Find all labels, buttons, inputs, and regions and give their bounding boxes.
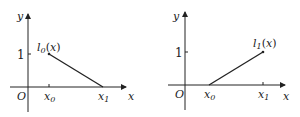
tick-label-1: 1 bbox=[175, 46, 183, 60]
y-label: y bbox=[16, 10, 24, 23]
tick-label-1: 1 bbox=[17, 48, 25, 62]
diagram: y 1 O x x0 x1 l0(x) y 1 O x x0 x1 l1(x) bbox=[0, 0, 300, 117]
y-label: y bbox=[172, 10, 180, 23]
segment-l0 bbox=[49, 54, 103, 87]
x-label: x bbox=[128, 90, 135, 103]
tick-label-x1: x1 bbox=[258, 88, 269, 102]
segment-l1 bbox=[209, 52, 263, 85]
panel-l1: y 1 O x x0 x1 l1(x) bbox=[168, 10, 290, 110]
x-label: x bbox=[283, 90, 290, 103]
panel-l0: y 1 O x x0 x1 l0(x) bbox=[10, 10, 135, 112]
origin-label: O bbox=[175, 88, 184, 101]
origin-label: O bbox=[17, 90, 26, 103]
function-label-l1: l1(x) bbox=[253, 37, 276, 51]
tick-label-x0: x0 bbox=[204, 88, 215, 102]
tick-label-x0: x0 bbox=[44, 90, 55, 104]
tick-label-x1: x1 bbox=[98, 90, 109, 104]
function-label-l0: l0(x) bbox=[37, 41, 60, 55]
